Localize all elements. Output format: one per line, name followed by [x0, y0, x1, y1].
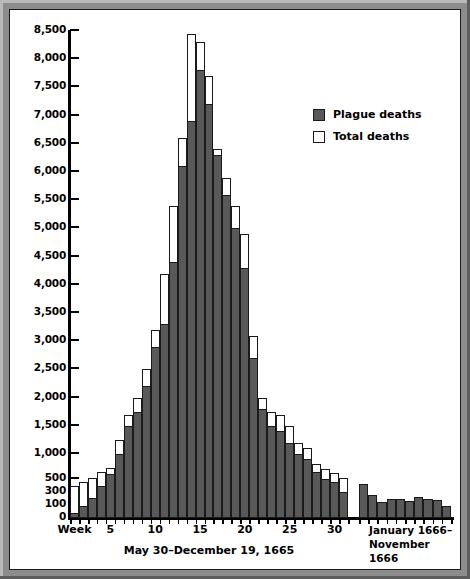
bar-column — [160, 31, 169, 518]
bar-column — [231, 31, 240, 518]
bar-plague-deaths — [321, 479, 330, 518]
legend-item-plague-deaths: Plague deaths — [313, 108, 422, 121]
bar-column — [267, 31, 276, 518]
bar-plague-deaths — [187, 121, 196, 518]
bar-column — [196, 31, 205, 518]
y-axis-tick-label: 300 — [14, 484, 66, 496]
y-axis-tick-label: 6,500 — [14, 136, 66, 148]
y-axis-tick-label: 1,000 — [14, 446, 66, 458]
bar-column — [303, 31, 312, 518]
bar-plague-deaths — [178, 166, 187, 518]
bar-plague-deaths — [339, 492, 348, 518]
bar-plague-deaths — [169, 262, 178, 518]
bar-column — [405, 31, 414, 518]
y-axis-tick-label: 2,000 — [14, 390, 66, 402]
bar-column — [205, 31, 214, 518]
bar-plague-deaths — [205, 104, 214, 518]
bar-plague-deaths — [151, 347, 160, 518]
bar-column — [133, 31, 142, 518]
bar-column — [240, 31, 249, 518]
bar-plague-deaths — [240, 268, 249, 518]
bar-column — [151, 31, 160, 518]
y-axis-tick-label: 100 — [14, 497, 66, 509]
bar-column — [285, 31, 294, 518]
bar-column — [124, 31, 133, 518]
bars-group-1666 — [359, 30, 451, 518]
bar-plague-deaths — [423, 499, 432, 519]
bar-column — [368, 31, 377, 518]
bar-column — [423, 31, 432, 518]
bar-column — [276, 31, 285, 518]
bar-plague-deaths — [276, 431, 285, 518]
bar-plague-deaths — [97, 486, 106, 519]
bar-column — [414, 31, 423, 518]
bar-column — [70, 31, 79, 518]
bar-column — [79, 31, 88, 518]
bar-plague-deaths — [368, 495, 377, 518]
bar-plague-deaths — [414, 497, 423, 518]
bar-column — [359, 31, 368, 518]
bar-plague-deaths — [285, 443, 294, 518]
y-axis-tick-label: 7,000 — [14, 108, 66, 120]
frame-bevel-top — [0, 0, 470, 3]
bar-plague-deaths — [79, 506, 88, 518]
bar-column — [258, 31, 267, 518]
y-axis-tick-label: 2,500 — [14, 361, 66, 373]
bar-plague-deaths — [359, 484, 368, 518]
bar-plague-deaths — [213, 155, 222, 518]
bar-plague-deaths — [115, 454, 124, 518]
bars-group-1665 — [70, 30, 348, 518]
y-axis-tick-label: 5,000 — [14, 220, 66, 232]
bar-plague-deaths — [231, 228, 240, 518]
caption-1666-line2: November 1666 — [369, 537, 460, 565]
bar-column — [294, 31, 303, 518]
chart-legend: Plague deaths Total deaths — [313, 108, 422, 152]
bar-plague-deaths — [160, 324, 169, 518]
bar-column — [142, 31, 151, 518]
bar-column — [339, 31, 348, 518]
bar-column — [321, 31, 330, 518]
bar-column — [169, 31, 178, 518]
bar-column — [178, 31, 187, 518]
bar-column — [433, 31, 442, 518]
y-axis-tick-label: 8,500 — [14, 23, 66, 35]
bar-column — [442, 31, 451, 518]
bar-column — [106, 31, 115, 518]
legend-item-total-deaths: Total deaths — [313, 130, 422, 143]
y-axis-tick-label: 3,500 — [14, 305, 66, 317]
bar-column — [330, 31, 339, 518]
bar-plague-deaths — [258, 409, 267, 518]
plot-area: 01003005001,0001,5002,0002,5003,0003,500… — [10, 10, 460, 568]
bar-column — [187, 31, 196, 518]
bar-column — [88, 31, 97, 518]
bar-plague-deaths — [312, 472, 321, 519]
bar-plague-deaths — [303, 459, 312, 518]
bar-plague-deaths — [249, 358, 258, 518]
y-axis-tick-label: 3,000 — [14, 333, 66, 345]
y-axis-labels: 01003005001,0001,5002,0002,5003,0003,500… — [10, 10, 66, 568]
legend-swatch-total-icon — [313, 131, 325, 143]
x-axis-caption-1665: May 30–December 19, 1665 — [59, 544, 359, 557]
bar-plague-deaths — [70, 513, 79, 518]
bar-plague-deaths — [377, 502, 386, 518]
bar-column — [222, 31, 231, 518]
bar-column — [213, 31, 222, 518]
y-axis-tick-label: 5,500 — [14, 192, 66, 204]
bar-plague-deaths — [267, 426, 276, 518]
bar-plague-deaths — [387, 499, 396, 518]
x-axis-tick-label: 30 — [305, 523, 365, 536]
bar-column — [387, 31, 396, 518]
bar-plague-deaths — [330, 482, 339, 518]
legend-swatch-plague-icon — [313, 109, 325, 121]
chart-panel: 01003005001,0001,5002,0002,5003,0003,500… — [9, 9, 461, 570]
bar-plague-deaths — [294, 454, 303, 518]
bar-plague-deaths — [124, 426, 133, 518]
bar-plague-deaths — [88, 498, 97, 518]
caption-1666-line1: January 1666– — [369, 523, 460, 537]
bar-plague-deaths — [142, 386, 151, 518]
y-axis-tick-label: 4,500 — [14, 249, 66, 261]
y-axis-tick-label: 0 — [14, 510, 66, 522]
bar-column — [312, 31, 321, 518]
bar-column — [97, 31, 106, 518]
y-axis-tick-label: 7,500 — [14, 79, 66, 91]
